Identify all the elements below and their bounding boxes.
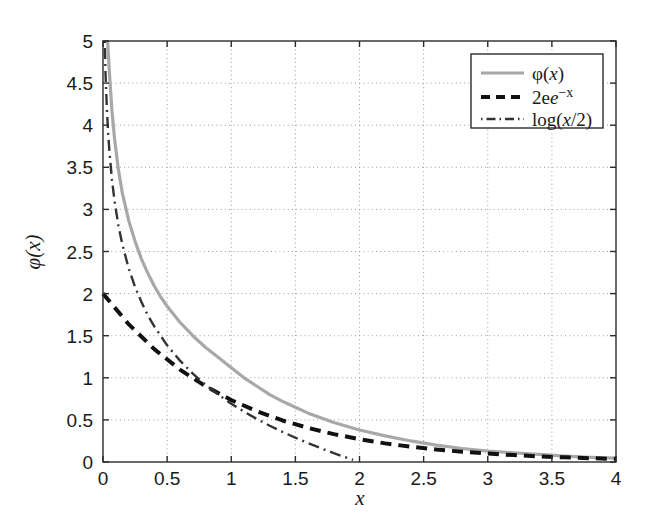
x-tick-label: 3.5: [539, 468, 565, 489]
x-tick-label: 1.5: [282, 468, 308, 489]
legend: φ(x) 2ee−x log(x/2): [471, 54, 603, 131]
y-axis-title: φ(x): [21, 235, 45, 270]
y-tick-label: 2: [82, 284, 93, 305]
y-tick-label: 0.5: [67, 410, 93, 431]
y-tick-label: 4.5: [67, 73, 93, 94]
x-tick-label: 2.5: [410, 468, 436, 489]
y-axis-tick-labels: 00.511.522.533.544.55: [67, 31, 94, 473]
x-tick-label: 3: [482, 468, 493, 489]
x-tick-label: 0: [98, 468, 109, 489]
line-chart: 00.511.522.533.54 00.511.522.533.544.55 …: [0, 0, 654, 524]
y-tick-label: 4: [82, 115, 93, 136]
figure-canvas: 00.511.522.533.54 00.511.522.533.544.55 …: [0, 0, 654, 524]
y-tick-label: 1: [82, 368, 93, 389]
y-tick-label: 1.5: [67, 326, 93, 347]
y-tick-label: 3.5: [67, 157, 93, 178]
y-tick-label: 0: [82, 452, 93, 473]
y-tick-label: 3: [82, 199, 93, 220]
y-tick-label: 2.5: [67, 242, 93, 263]
x-tick-label: 4: [611, 468, 622, 489]
legend-label-log: log(x/2): [532, 109, 592, 131]
y-tick-label: 5: [82, 31, 93, 52]
x-tick-label: 1: [226, 468, 237, 489]
legend-label-phi: φ(x): [532, 63, 564, 85]
x-tick-label: 0.5: [154, 468, 180, 489]
x-axis-title: x: [354, 486, 365, 510]
